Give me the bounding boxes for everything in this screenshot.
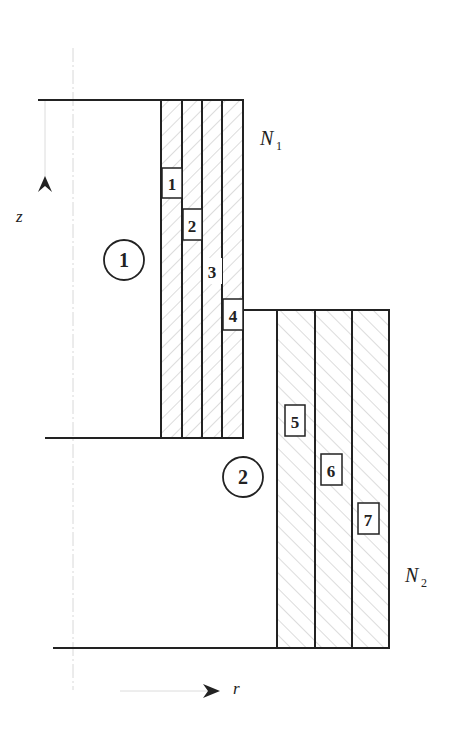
- svg-text:3: 3: [208, 263, 217, 282]
- region-2-marker: 2: [223, 457, 263, 497]
- diagram-canvas: z r 1 2 3 4 5: [0, 0, 451, 736]
- svg-text:6: 6: [327, 462, 336, 481]
- svg-text:1: 1: [276, 139, 282, 153]
- svg-text:7: 7: [364, 511, 373, 530]
- layer-3-label: 3: [203, 258, 222, 284]
- layer-7-label: 7: [358, 503, 379, 534]
- layer-1-label: 1: [162, 168, 182, 198]
- svg-text:1: 1: [168, 175, 177, 194]
- coil-n2-label: N 2: [404, 564, 427, 590]
- svg-text:N: N: [404, 564, 420, 586]
- layer-5-label: 5: [285, 405, 305, 436]
- svg-text:2: 2: [421, 576, 427, 590]
- svg-text:2: 2: [238, 466, 248, 488]
- svg-text:1: 1: [119, 249, 129, 271]
- r-axis-label: r: [233, 679, 240, 698]
- z-axis-label: z: [15, 207, 23, 226]
- coil-n1-label: N 1: [259, 127, 282, 153]
- r-axis-arrow: [120, 684, 220, 698]
- layer-6-label: 6: [321, 454, 342, 485]
- coil-n1-block: [161, 100, 243, 438]
- layer-2-label: 2: [183, 209, 202, 240]
- svg-text:2: 2: [188, 217, 197, 236]
- region-1-marker: 1: [104, 240, 144, 280]
- svg-text:4: 4: [229, 307, 238, 326]
- svg-text:N: N: [259, 127, 275, 149]
- svg-text:5: 5: [291, 413, 300, 432]
- layer-4-label: 4: [223, 299, 243, 330]
- z-axis-arrow: [38, 100, 52, 192]
